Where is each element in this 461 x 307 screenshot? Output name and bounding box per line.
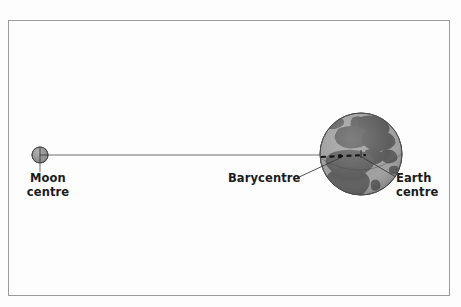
moon-label-line2: centre: [19, 186, 77, 200]
earth-label-line1: Earth: [396, 172, 456, 186]
moon-body: [32, 147, 48, 163]
barycentre-label-line1: Barycentre: [228, 172, 300, 186]
barycentre-label: Barycentre: [228, 172, 300, 186]
moon-label-line1: Moon: [19, 172, 77, 186]
barycentre-point: [338, 154, 342, 158]
moon-centre-label: Moon centre: [19, 172, 77, 199]
figure-canvas: Moon centre Barycentre Earth centre: [0, 0, 461, 307]
barycentre-diagram: [0, 0, 461, 307]
earth-label-line2: centre: [396, 186, 456, 200]
earth-globe: [314, 113, 402, 200]
earth-centre-label: Earth centre: [396, 172, 456, 199]
